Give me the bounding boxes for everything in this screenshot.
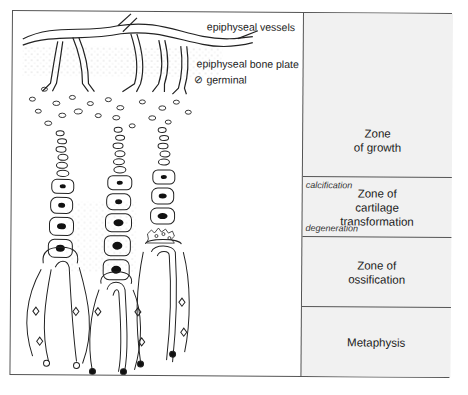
zone-metaphysis-label: Metaphysis bbox=[347, 335, 405, 349]
degeneration-label: degeneration bbox=[305, 221, 358, 235]
calcification-label: calcification bbox=[306, 178, 353, 192]
germinal-text: germinal bbox=[206, 73, 246, 85]
zone-cartilage-transformation: calcification Zone of cartilage transfor… bbox=[302, 177, 451, 238]
zone-growth: Zone of growth bbox=[303, 13, 453, 178]
zone-ossification-label: Zone of ossification bbox=[348, 258, 405, 286]
label-epiphyseal-vessels: epiphyseal vessels bbox=[207, 20, 295, 33]
zone-metaphysis: Metaphysis bbox=[301, 307, 450, 377]
growth-plate-drawing: epiphyseal vessels epiphyseal bone plate… bbox=[10, 11, 303, 376]
figure-frame: epiphyseal vessels epiphyseal bone plate… bbox=[9, 10, 452, 378]
zone-growth-label: Zone of growth bbox=[354, 126, 402, 154]
zone-ossification: Zone of ossification bbox=[302, 237, 451, 308]
germinal-cell-icon: ⊘ bbox=[194, 73, 203, 85]
zones-panel: Zone of growth calcification Zone of car… bbox=[300, 13, 453, 377]
label-epiphyseal-bone-plate: epiphyseal bone plate bbox=[197, 57, 299, 70]
germinal-cells bbox=[29, 87, 191, 128]
label-germinal: ⊘ germinal bbox=[194, 73, 246, 85]
